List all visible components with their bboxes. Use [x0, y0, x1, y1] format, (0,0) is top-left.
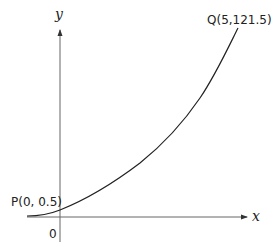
- origin-label: 0: [49, 227, 57, 241]
- graph-canvas: y x 0 P(0, 0.5) Q(5,121.5): [0, 0, 279, 244]
- x-axis-label: x: [252, 208, 260, 224]
- y-axis-label: y: [54, 6, 64, 22]
- point-p-label: P(0, 0.5): [11, 195, 62, 209]
- function-curve: [27, 28, 238, 216]
- point-q-label: Q(5,121.5): [207, 13, 272, 27]
